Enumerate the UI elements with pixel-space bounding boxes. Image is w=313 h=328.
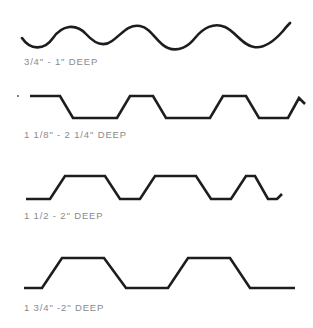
profile-caption-medium-rib: 1 1/2 - 2" DEEP — [24, 211, 104, 221]
profile-block-medium-rib — [0, 166, 313, 210]
profile-shape-sinusoidal — [0, 4, 313, 52]
profile-block-narrow-rib — [0, 88, 313, 130]
stray-mark-dot — [17, 95, 19, 97]
profile-caption-deep-rib: 1 3/4" -2" DEEP — [24, 303, 104, 313]
profile-shape-deep-rib — [0, 248, 313, 298]
profile-block-deep-rib — [0, 248, 313, 298]
profile-caption-narrow-rib: 1 1/8" - 2 1/4" DEEP — [24, 130, 127, 140]
profile-block-sinusoidal — [0, 4, 313, 52]
profile-caption-sinusoidal: 3/4" - 1" DEEP — [24, 57, 98, 67]
panel-profile-drawing: 3/4" - 1" DEEP 1 1/8" - 2 1/4" DEEP 1 1/… — [0, 0, 313, 328]
profile-shape-medium-rib — [0, 166, 313, 210]
profile-shape-narrow-rib — [0, 88, 313, 130]
